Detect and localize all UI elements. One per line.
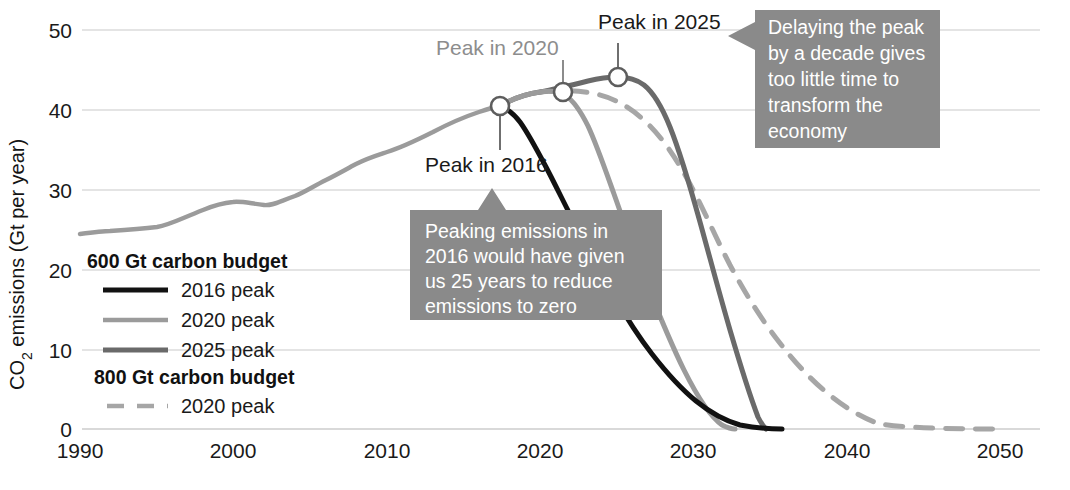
- callout-2025: Delaying the peak by a decade gives too …: [728, 10, 940, 148]
- y-tick-0: 0: [60, 418, 72, 441]
- peak-2025-marker-group: Peak in 2025: [598, 10, 721, 86]
- x-tick-2040: 2040: [824, 439, 871, 462]
- x-tick-2050: 2050: [977, 439, 1024, 462]
- y-tick-50: 50: [49, 19, 72, 42]
- legend-label-2016-peak: 2016 peak: [181, 279, 275, 301]
- callout-2025-line-3: too little time to: [768, 68, 899, 90]
- legend-heading-600gt: 600 Gt carbon budget: [87, 250, 288, 272]
- peak-2016-dot: [491, 97, 509, 115]
- y-axis-title-text: CO2 emissions (Gt per year): [6, 139, 35, 390]
- callout-2016-line-2: 2016 would have given: [425, 245, 625, 267]
- x-tick-2010: 2010: [364, 439, 411, 462]
- legend-label-2025-peak: 2025 peak: [181, 339, 275, 361]
- legend-item-2020-peak-600gt[interactable]: 2020 peak: [103, 309, 275, 331]
- peak-2025-label: Peak in 2025: [598, 10, 721, 33]
- y-tick-40: 40: [49, 99, 72, 122]
- chart-canvas: 50 40 30 20 10 0 1990 2000 2010 2020 203…: [0, 0, 1070, 490]
- x-tick-1990: 1990: [57, 439, 104, 462]
- callout-2016-line-3: us 25 years to reduce: [425, 270, 613, 292]
- legend-item-2020-peak-800gt[interactable]: 2020 peak: [107, 395, 275, 417]
- legend-item-2016-peak[interactable]: 2016 peak: [103, 279, 275, 301]
- y-axis-title: CO2 emissions (Gt per year): [6, 139, 35, 390]
- callout-2016-line-4: emissions to zero: [425, 295, 577, 317]
- callout-2016-line-1: Peaking emissions in: [425, 220, 608, 242]
- y-tick-30: 30: [49, 179, 72, 202]
- legend-heading-800gt: 800 Gt carbon budget: [94, 366, 295, 388]
- x-axis-ticks: 1990 2000 2010 2020 2030 2040 2050: [57, 439, 1024, 462]
- x-tick-2030: 2030: [670, 439, 717, 462]
- x-tick-2020: 2020: [517, 439, 564, 462]
- legend-label-2020-peak-600gt: 2020 peak: [181, 309, 275, 331]
- callout-2016: Peaking emissions in 2016 would have giv…: [410, 188, 662, 320]
- legend-label-2020-peak-800gt: 2020 peak: [181, 395, 275, 417]
- co2-emissions-chart: 50 40 30 20 10 0 1990 2000 2010 2020 203…: [0, 0, 1070, 490]
- peak-2025-dot: [609, 68, 627, 86]
- chart-legend: 600 Gt carbon budget 2016 peak 2020 peak…: [87, 250, 295, 417]
- callout-2025-line-2: by a decade gives: [768, 42, 925, 64]
- peak-2020-dot: [554, 83, 572, 101]
- y-tick-20: 20: [49, 259, 72, 282]
- callout-2025-line-5: economy: [768, 120, 847, 142]
- legend-item-2025-peak[interactable]: 2025 peak: [103, 339, 275, 361]
- peak-2016-label: Peak in 2016: [425, 153, 548, 176]
- callout-2025-line-4: transform the: [768, 94, 883, 116]
- y-axis-ticks: 50 40 30 20 10 0: [49, 19, 72, 441]
- x-tick-2000: 2000: [210, 439, 257, 462]
- peak-2020-label: Peak in 2020: [436, 36, 559, 59]
- y-tick-10: 10: [49, 339, 72, 362]
- callout-2025-line-1: Delaying the peak: [768, 16, 924, 38]
